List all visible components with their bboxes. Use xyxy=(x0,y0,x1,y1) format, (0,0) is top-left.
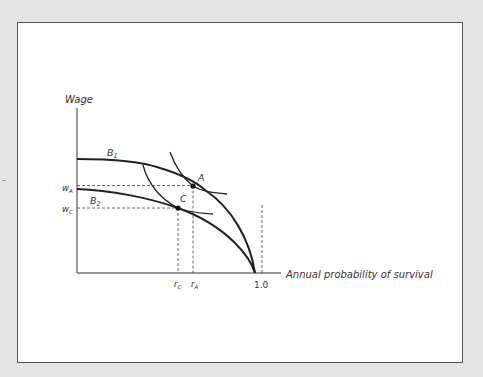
ra-tick-label: rA xyxy=(191,279,199,290)
b2-label: B2 xyxy=(90,195,101,208)
guide-lines xyxy=(77,186,262,274)
wc-tick-label: wC xyxy=(62,204,73,215)
rc-tick-label: rC xyxy=(174,279,182,290)
one-tick-label: 1.0 xyxy=(254,280,269,290)
wa-tick-label: wA xyxy=(62,183,73,194)
chart: Wage Annual probability of survival B1 B… xyxy=(0,0,483,377)
point-a-label: A xyxy=(197,172,205,183)
x-axis-label: Annual probability of survival xyxy=(285,269,433,280)
curve-b1 xyxy=(77,159,255,273)
b1-label: B1 xyxy=(107,147,118,160)
point-a xyxy=(190,183,195,188)
point-c-label: C xyxy=(180,193,187,204)
point-c xyxy=(175,205,180,210)
curve-b2 xyxy=(77,189,255,273)
y-axis-label: Wage xyxy=(65,94,93,105)
